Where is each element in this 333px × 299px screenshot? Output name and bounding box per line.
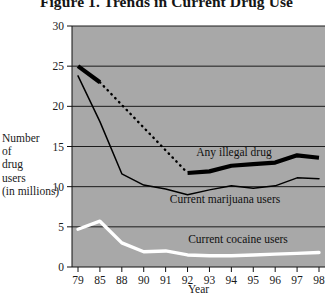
y-axis-tick-label: 0	[58, 261, 64, 273]
x-axis-tick-label: 91	[160, 274, 172, 286]
figure-container: Figure 1. Trends in Current Drug Use Num…	[0, 0, 333, 299]
line-chart-svg: 051015202530 798588909192939495969798 An…	[0, 0, 333, 299]
x-axis-tick-label: 93	[204, 274, 216, 286]
y-axis-tick-label: 20	[53, 100, 65, 112]
y-axis-tick-label: 10	[53, 181, 65, 193]
x-axis-tick-label: 98	[313, 274, 325, 286]
y-axis-tick-label: 15	[53, 141, 65, 153]
series-label-any-illegal-drug: Any illegal drug	[196, 146, 272, 159]
x-axis-tick-label: 94	[226, 274, 238, 286]
y-axis-tick-label: 30	[53, 20, 65, 32]
x-axis-tick-label: 95	[248, 274, 260, 286]
x-axis-tick-label: 96	[269, 274, 281, 286]
x-axis-tick-labels: 798588909192939495969798	[72, 274, 325, 286]
x-axis-tick-label: 88	[116, 274, 128, 286]
series-label-current-cocaine-users: Current cocaine users	[188, 233, 288, 245]
plot-area: 051015202530 798588909192939495969798 An…	[0, 0, 333, 299]
x-axis-tick-label: 90	[138, 274, 150, 286]
x-axis-tick-label: 79	[72, 274, 84, 286]
y-axis-tick-label: 25	[53, 60, 65, 72]
series-label-current-marijuana-users: Current marijuana users	[170, 193, 281, 206]
x-axis-tick-label: 92	[182, 274, 194, 286]
y-axis-tick-labels: 051015202530	[53, 20, 65, 273]
x-axis-tick-label: 97	[291, 274, 303, 286]
y-axis-ticks	[67, 26, 72, 267]
x-axis-tick-label: 85	[94, 274, 106, 286]
x-axis-ticks	[78, 267, 319, 272]
y-axis-tick-label: 5	[58, 221, 64, 233]
